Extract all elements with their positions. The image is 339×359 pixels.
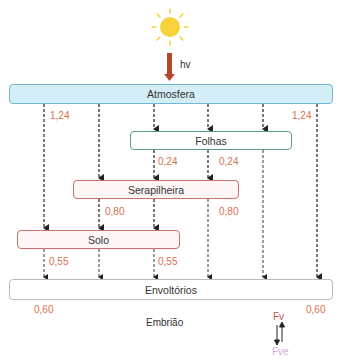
- folhas-box: Folhas: [130, 131, 292, 150]
- value-atm-right: 1,24: [292, 110, 311, 121]
- atmosfera-label: Atmosfera: [147, 88, 195, 100]
- value-sera-right: 0,80: [219, 206, 238, 217]
- value-env-left: 0,60: [34, 304, 53, 315]
- value-folhas-right: 0,24: [219, 156, 238, 167]
- serapilheira-box: Serapilheira: [73, 180, 239, 199]
- fve-label: Fve: [272, 346, 289, 357]
- fv-label: Fv: [273, 311, 284, 322]
- value-solo-left: 0,55: [49, 256, 68, 267]
- value-solo-right: 0,55: [158, 256, 177, 267]
- value-folhas-left: 0,24: [158, 156, 177, 167]
- envoltorios-box: Envoltórios: [9, 279, 333, 300]
- solo-box: Solo: [17, 230, 180, 249]
- envoltorios-label: Envoltórios: [145, 284, 197, 296]
- sun-icon: [152, 9, 188, 45]
- light-arrow-icon: [164, 53, 175, 81]
- folhas-label: Folhas: [195, 135, 227, 147]
- atmosfera-box: Atmosfera: [9, 84, 333, 104]
- embriao-label: Embrião: [146, 317, 183, 328]
- value-atm-left: 1,24: [50, 110, 69, 121]
- solo-label: Solo: [88, 234, 109, 246]
- serapilheira-label: Serapilheira: [128, 184, 184, 196]
- light-label: hv: [180, 59, 191, 70]
- equilibrium-arrows-icon: [275, 322, 285, 345]
- value-env-right: 0,60: [306, 304, 325, 315]
- value-sera-left: 0,80: [105, 206, 124, 217]
